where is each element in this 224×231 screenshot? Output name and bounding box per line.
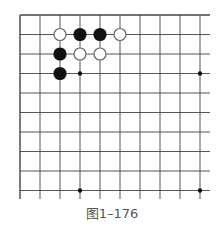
star-point: [198, 188, 202, 192]
star-point: [78, 71, 82, 75]
star-point: [78, 188, 82, 192]
black-stone: [93, 28, 106, 41]
go-board: [0, 0, 224, 205]
white-stone: [74, 48, 86, 60]
black-stone: [53, 47, 66, 60]
white-stone: [94, 48, 106, 60]
star-point: [198, 71, 202, 75]
figure-caption: 图1–176: [0, 203, 224, 222]
white-stone: [54, 29, 66, 41]
white-stone: [114, 29, 126, 41]
black-stone: [73, 28, 86, 41]
black-stone: [53, 67, 66, 80]
